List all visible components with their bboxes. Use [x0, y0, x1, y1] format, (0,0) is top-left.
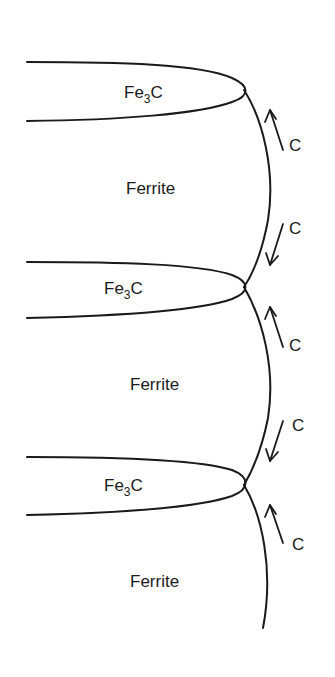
fe3c-label-3: Fe3C — [104, 476, 143, 499]
ferrite-label-3: Ferrite — [130, 572, 179, 591]
svg-text:C: C — [292, 416, 304, 435]
diffusion-arrow-3: C — [265, 307, 301, 355]
svg-text:C: C — [289, 219, 301, 238]
growth-interface — [244, 90, 270, 628]
svg-text:C: C — [289, 136, 301, 155]
diffusion-arrow-1: C — [265, 110, 301, 155]
diffusion-arrow-4: C — [266, 416, 304, 461]
pearlite-diagram: C C C C C Fe3C Ferrite Fe3C Ferrite Fe3C… — [0, 0, 335, 677]
svg-text:C: C — [289, 336, 301, 355]
diffusion-arrow-2: C — [266, 219, 301, 265]
svg-text:C: C — [292, 535, 304, 554]
fe3c-label-1: Fe3C — [124, 83, 163, 106]
ferrite-label-1: Ferrite — [126, 179, 175, 198]
ferrite-label-2: Ferrite — [130, 375, 179, 394]
diffusion-arrow-5: C — [265, 505, 304, 554]
fe3c-label-2: Fe3C — [104, 279, 143, 302]
